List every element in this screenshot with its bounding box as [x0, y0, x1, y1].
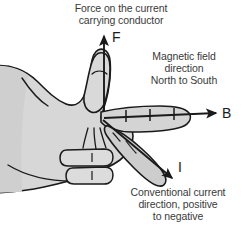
force-caption: Force on the current carrying conductor [0, 2, 242, 26]
flemings-left-hand-rule-diagram: Force on the current carrying conductor … [0, 0, 242, 229]
thumb-outline [84, 53, 110, 113]
ring-finger-folded [60, 149, 113, 166]
field-vector-label: B [222, 106, 231, 120]
folded-fingers-shape [60, 149, 113, 184]
force-caption-line-2: carrying conductor [0, 14, 242, 26]
little-finger-folded [66, 167, 113, 184]
current-caption-line-2: direction, positive [114, 198, 242, 210]
force-caption-line-1: Force on the current [0, 2, 242, 14]
current-vector-label: I [178, 160, 182, 174]
thumb-shape [84, 53, 110, 113]
field-caption-line-1: Magnetic field [128, 50, 240, 62]
force-vector-label: F [112, 30, 121, 44]
current-caption-line-1: Conventional current [114, 186, 242, 198]
field-caption-line-3: North to South [128, 74, 240, 86]
current-caption-line-3: to negative [114, 210, 242, 222]
conventional-current-caption: Conventional current direction, positive… [114, 186, 242, 223]
magnetic-field-caption: Magnetic field direction North to South [128, 50, 240, 87]
field-caption-line-2: direction [128, 62, 240, 74]
